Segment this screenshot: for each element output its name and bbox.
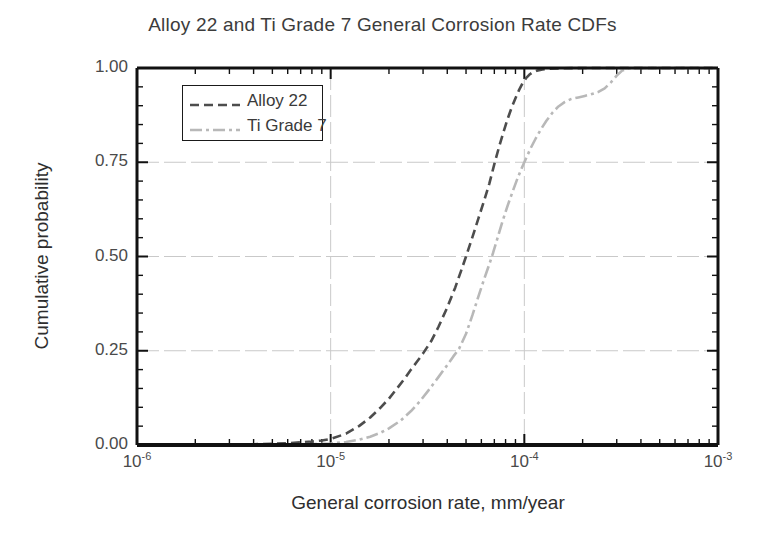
- legend-label-ti-grade-7: Ti Grade 7: [247, 116, 327, 136]
- chart-figure: Alloy 22 and Ti Grade 7 General Corrosio…: [0, 0, 765, 538]
- legend-swatch-alloy-22: [189, 96, 241, 106]
- plot-area: [0, 0, 765, 538]
- legend-label-alloy-22: Alloy 22: [247, 91, 307, 111]
- legend-swatch-ti-grade-7: [189, 121, 241, 131]
- chart-legend: Alloy 22 Ti Grade 7: [182, 85, 323, 141]
- legend-item-alloy-22: Alloy 22: [189, 88, 319, 114]
- legend-item-ti-grade-7: Ti Grade 7: [189, 113, 319, 139]
